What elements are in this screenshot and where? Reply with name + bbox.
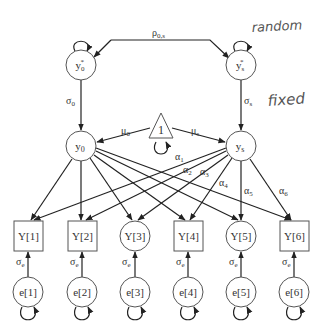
error-label-4: e[4]	[179, 286, 197, 298]
observed-label-2: Y[2]	[72, 230, 93, 242]
error-label-1: e[1]	[19, 286, 37, 298]
sigma-e-label-4: σe	[176, 256, 185, 269]
sigma-e-label-1: σe	[16, 256, 25, 269]
alpha4-label: α4	[219, 177, 228, 190]
sigma0-label: σ0	[66, 95, 75, 108]
alpha6-label: α6	[279, 185, 288, 198]
observed-label-5: Y[5]	[231, 230, 252, 242]
annotation-random: random	[251, 17, 302, 35]
observed-label-1: Y[1]	[18, 230, 39, 242]
observed-label-4: Y[4]	[178, 230, 199, 242]
alpha2-label: α2	[183, 164, 192, 177]
mu0-label: μ0	[121, 125, 130, 138]
error-label-6: e[6]	[285, 286, 303, 298]
error-label-3: e[3]	[126, 286, 144, 298]
ys-star-label: ys*	[236, 58, 245, 73]
rho-covariance-path-left	[94, 40, 111, 57]
constant-label: 1	[158, 123, 164, 137]
rho-label: ρ0,s	[152, 27, 165, 40]
observed-label-6: Y[6]	[284, 230, 305, 242]
mus-label: μs	[191, 125, 199, 138]
sigma-e-label-2: σe	[70, 256, 79, 269]
error-variance-loops	[21, 307, 302, 320]
sigma-e-label-5: σe	[229, 256, 238, 269]
alpha3-label: α3	[200, 166, 209, 179]
alpha5-label: α5	[244, 185, 253, 198]
error-label-5: e[5]	[232, 286, 250, 298]
rho-covariance-path	[111, 40, 229, 58]
annotation-fixed: fixed	[267, 89, 306, 110]
y0-star-label: y0*	[76, 58, 86, 73]
sigma-e-label-3: σe	[122, 256, 131, 269]
sem-path-diagram: y0* ys* y0 ys 1 Y[1] Y[2] Y[3] Y[4] Y[5]…	[0, 0, 327, 331]
error-label-2: e[2]	[73, 286, 91, 298]
variance-loop-constant	[154, 142, 167, 154]
alpha1-label: α1	[175, 151, 184, 164]
observed-label-3: Y[3]	[125, 230, 146, 242]
sigmas-label: σs	[244, 95, 252, 108]
sigma-e-label-6: σe	[282, 256, 291, 269]
error-paths	[28, 252, 294, 277]
y0-loading-paths	[31, 148, 291, 220]
